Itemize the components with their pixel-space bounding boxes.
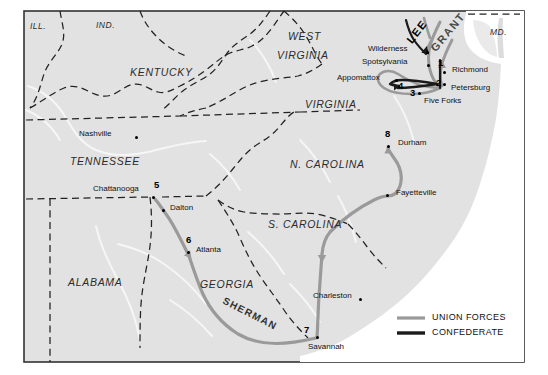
city-label-durham: Durham (398, 138, 426, 147)
state-label-tennessee: TENNESSEE (70, 155, 140, 167)
battle-marker-2: 2 (436, 77, 441, 88)
state-label-maryland: MD. (490, 27, 507, 37)
state-label-north-carolina: N. CAROLINA (290, 158, 365, 170)
legend-label-confederate: CONFEDERATE (432, 327, 504, 337)
city-label-richmond: Richmond (452, 65, 488, 74)
state-label-west-virginia: VIRGINIA (277, 49, 329, 61)
state-label-kentucky: KENTUCKY (130, 66, 193, 78)
battle-marker-4: 4 (398, 80, 403, 91)
state-label-south-carolina: S. CAROLINA (268, 218, 342, 230)
battle-marker-6: 6 (186, 234, 191, 245)
legend-label-union: UNION FORCES (432, 312, 506, 322)
battle-marker-5: 5 (154, 179, 159, 190)
state-label-west: WEST (288, 30, 321, 42)
civil-war-campaign-map: ILL. IND. KENTUCKY WEST VIRGINIA VIRGINI… (0, 0, 548, 375)
battle-marker-8: 8 (385, 128, 390, 139)
city-label-appomattox: Appomattox (337, 73, 380, 82)
city-label-savannah: Savannah (308, 342, 344, 351)
battle-marker-1: 1 (438, 57, 443, 68)
city-label-chattanooga: Chattanooga (93, 184, 139, 193)
battle-marker-7: 7 (304, 324, 309, 335)
city-label-spotsylvania: Spotsylvania (362, 57, 407, 66)
city-label-five-forks: Five Forks (424, 96, 461, 105)
city-label-charleston: Charleston (313, 291, 352, 300)
city-label-atlanta: Atlanta (196, 245, 221, 254)
state-label-illinois: ILL. (30, 21, 46, 31)
city-label-fayetteville: Fayetteville (396, 188, 436, 197)
state-label-alabama: ALABAMA (68, 276, 123, 288)
city-label-dalton: Dalton (170, 203, 193, 212)
state-label-virginia: VIRGINIA (305, 98, 357, 110)
state-label-georgia: GEORGIA (200, 278, 254, 290)
city-label-petersburg: Petersburg (451, 83, 490, 92)
city-label-nashville: Nashville (79, 129, 111, 138)
battle-marker-3: 3 (410, 87, 415, 98)
city-label-wilderness: Wilderness (368, 44, 408, 53)
state-label-indiana: IND. (96, 20, 115, 30)
